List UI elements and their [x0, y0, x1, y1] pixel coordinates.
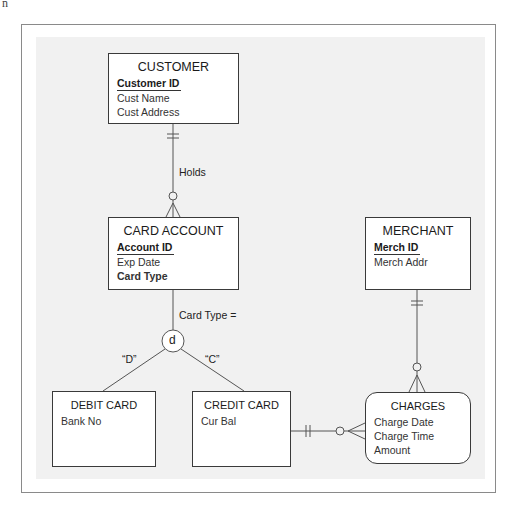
holds-crowfoot-right [173, 203, 180, 217]
primary-key-attribute: Account ID [117, 240, 174, 255]
attribute: Exp Date [117, 255, 230, 269]
subtype-branch-label-debit: “D” [122, 353, 137, 365]
entity-title: CREDIT CARD [201, 397, 282, 413]
entity-title: MERCHANT [374, 223, 462, 239]
attribute: Cur Bal [201, 414, 282, 428]
entity-title: CUSTOMER [117, 59, 230, 75]
entity-customer[interactable]: CUSTOMER Customer ID Cust Name Cust Addr… [108, 53, 239, 124]
primary-key-attribute: Merch ID [374, 240, 420, 255]
credit-crowfoot-bottom [348, 431, 365, 439]
merchant-crowfoot-left [409, 375, 417, 392]
subtype-branch-label-credit: “C” [205, 353, 220, 365]
entity-merchant[interactable]: MERCHANT Merch ID Merch Addr [365, 217, 471, 290]
credit-crowfoot-top [348, 423, 365, 431]
attribute: Cust Address [117, 105, 230, 119]
entity-charges[interactable]: CHARGES Charge Date Charge Time Amount [365, 392, 471, 464]
attribute: Cust Name [117, 91, 230, 105]
attribute: Charge Date [374, 415, 462, 429]
subtype-discriminator-label: Card Type = [179, 309, 236, 321]
entity-debit-card[interactable]: DEBIT CARD Bank No [52, 391, 156, 467]
merchant-zero-circle [413, 363, 421, 371]
entity-title: DEBIT CARD [61, 397, 147, 413]
entity-title: CARD ACCOUNT [117, 223, 230, 239]
merchant-crowfoot-right [417, 375, 425, 392]
attribute: Amount [374, 443, 462, 457]
attribute: Merch Addr [374, 255, 462, 269]
disjoint-symbol: d [169, 333, 176, 347]
entity-title: CHARGES [374, 398, 462, 414]
holds-crowfoot-left [166, 203, 173, 217]
relationship-label-holds: Holds [179, 166, 206, 178]
credit-zero-circle [336, 427, 344, 435]
primary-key-attribute: Customer ID [117, 76, 181, 91]
entity-credit-card[interactable]: CREDIT CARD Cur Bal [192, 391, 291, 467]
holds-zero-circle [169, 192, 177, 200]
entity-card-account[interactable]: CARD ACCOUNT Account ID Exp Date Card Ty… [108, 217, 239, 290]
discriminator-attribute: Card Type [117, 269, 230, 283]
attribute: Bank No [61, 414, 147, 428]
attribute: Charge Time [374, 429, 462, 443]
